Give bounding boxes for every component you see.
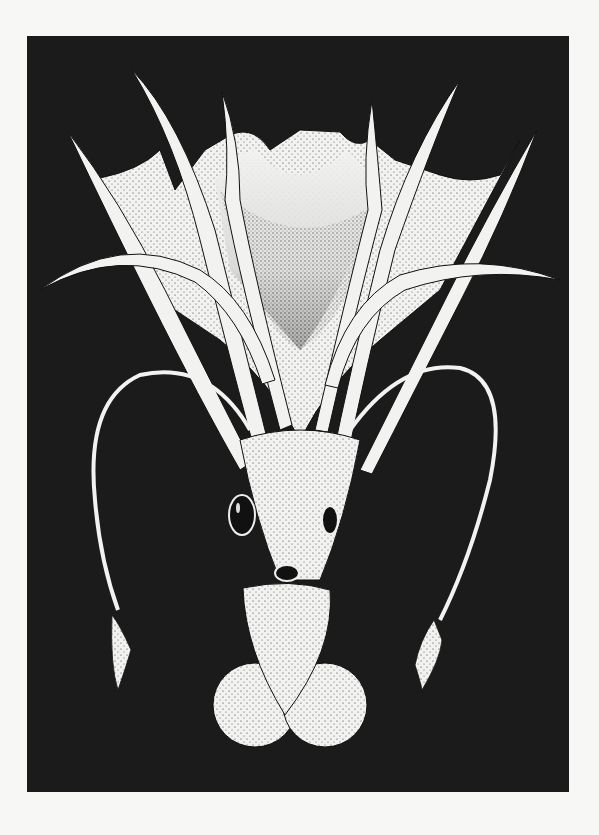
right-eye	[322, 506, 338, 534]
head	[229, 430, 360, 581]
squid-illustration	[0, 0, 599, 835]
mantle	[213, 583, 367, 747]
left-tentacle-club	[112, 615, 131, 690]
left-eye	[229, 495, 255, 535]
right-tentacle-club	[415, 620, 442, 690]
funnel	[275, 565, 299, 581]
